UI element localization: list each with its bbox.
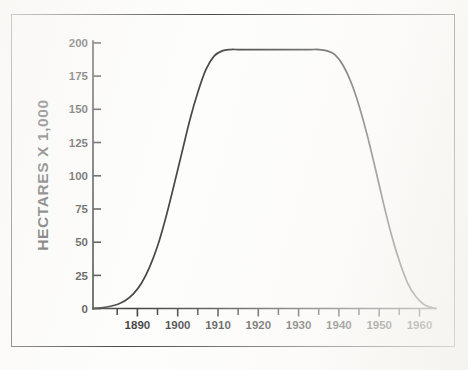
y-tick-label: 100 <box>69 170 88 182</box>
data-curve-hectares <box>93 49 436 308</box>
y-axis-ticks <box>93 43 101 309</box>
y-tick-label: 0 <box>82 303 88 315</box>
y-tick-label: 75 <box>75 203 88 215</box>
y-tick-label: 50 <box>75 236 88 248</box>
y-axis-title: HECTARES X 1,000 <box>34 99 51 250</box>
x-tick-label: 1930 <box>286 319 312 331</box>
y-tick-label: 125 <box>69 137 89 149</box>
chart-canvas: 200 175 150 125 100 75 50 25 0 <box>0 0 468 370</box>
x-axis-tick-labels: 1890 1900 1910 1920 1930 1940 1950 1960 <box>125 319 433 331</box>
x-tick-label: 1910 <box>205 319 231 331</box>
y-tick-label: 200 <box>69 37 88 49</box>
x-tick-label: 1900 <box>165 319 191 331</box>
x-tick-label: 1920 <box>246 319 272 331</box>
x-tick-label: 1940 <box>326 319 352 331</box>
y-axis-tick-labels: 200 175 150 125 100 75 50 25 0 <box>69 37 89 315</box>
y-tick-label: 150 <box>69 103 88 115</box>
x-tick-label: 1890 <box>125 319 151 331</box>
y-tick-label: 25 <box>75 270 88 282</box>
figure-root: 200 175 150 125 100 75 50 25 0 <box>0 0 468 370</box>
x-tick-label: 1960 <box>407 319 433 331</box>
y-tick-label: 175 <box>69 70 89 82</box>
x-tick-label: 1950 <box>366 319 392 331</box>
